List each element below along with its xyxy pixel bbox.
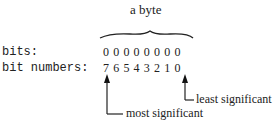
msb-label: most significant <box>126 106 203 121</box>
lsb-label: least significant <box>196 92 272 107</box>
msb-arrow <box>104 74 123 114</box>
lsb-arrow <box>182 74 194 100</box>
bits-values: 00000000 <box>103 45 185 60</box>
bit-numbers-label: bit numbers: <box>2 61 88 75</box>
bit-numbers-values: 76543210 <box>103 61 185 76</box>
bits-label: bits: <box>2 45 38 59</box>
byte-brace <box>100 31 193 38</box>
